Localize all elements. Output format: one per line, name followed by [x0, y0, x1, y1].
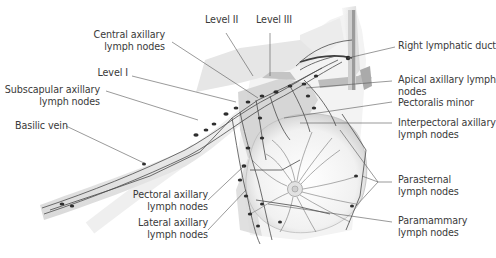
label-level-iii: Level III	[256, 14, 292, 26]
breast	[246, 114, 367, 233]
label-lateral-axillary-lymph-nodes: Lateral axillary lymph nodes	[138, 217, 208, 240]
label-paramammary-lymph-nodes: Paramammary lymph nodes	[398, 215, 467, 238]
label-interpectoral-axillary-lymph-nodes: Interpectoral axillary lymph nodes	[398, 117, 496, 140]
label-parasternal-lymph-nodes: Parasternal lymph nodes	[398, 174, 459, 197]
label-right-lymphatic-duct: Right lymphatic duct	[398, 40, 496, 52]
label-level-i: Level I	[97, 67, 128, 79]
label-subscapular-axillary-lymph-nodes: Subscapular axillary lymph nodes	[5, 84, 100, 107]
label-pectoral-axillary-lymph-nodes: Pectoral axillary lymph nodes	[133, 189, 208, 212]
label-apical-axillary-lymph-nodes: Apical axillary lymph nodes	[398, 74, 496, 97]
label-basilic-vein: Basilic vein	[15, 120, 68, 132]
label-level-ii: Level II	[205, 14, 238, 26]
label-pectoralis-minor: Pectoralis minor	[398, 97, 474, 109]
label-central-axillary-lymph-nodes: Central axillary lymph nodes	[94, 29, 165, 52]
